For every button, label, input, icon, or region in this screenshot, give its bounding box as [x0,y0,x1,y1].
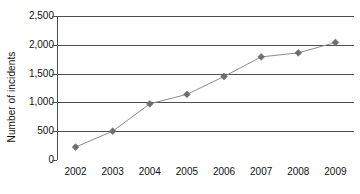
data-point-marker [72,144,79,151]
y-tick-label: 2,500 [20,11,54,21]
plot-area [57,16,354,160]
y-tick-label: 0 [20,155,54,165]
x-axis-tick-labels: 20022003200420052006200720082009 [57,163,355,183]
x-tick-label: 2009 [315,166,355,177]
y-tick-mark [52,16,57,17]
x-tick-label: 2002 [56,166,96,177]
y-axis-title: Number of incidents [0,0,22,194]
x-tick-label: 2006 [204,166,244,177]
y-tick-mark [52,45,57,46]
x-tick-label: 2003 [93,166,133,177]
x-tick-label: 2008 [278,166,318,177]
line-chart: Number of incidents 05001,0001,5002,0002… [0,0,360,194]
y-tick-label: 500 [20,126,54,136]
plot-svg [57,16,354,160]
y-tick-mark [52,102,57,103]
data-point-marker [146,100,153,107]
data-point-marker [295,49,302,56]
y-tick-mark [52,74,57,75]
data-point-marker [258,53,265,60]
x-tick-label: 2005 [167,166,207,177]
x-tick-label: 2007 [241,166,281,177]
x-tick-label: 2004 [130,166,170,177]
data-point-marker [184,91,191,98]
y-axis-tick-labels: 05001,0001,5002,0002,500 [20,0,54,194]
y-tick-label: 1,500 [20,69,54,79]
y-tick-mark [52,160,57,161]
y-tick-mark [52,131,57,132]
y-tick-label: 2,000 [20,40,54,50]
y-tick-label: 1,000 [20,97,54,107]
data-point-marker [109,128,116,135]
